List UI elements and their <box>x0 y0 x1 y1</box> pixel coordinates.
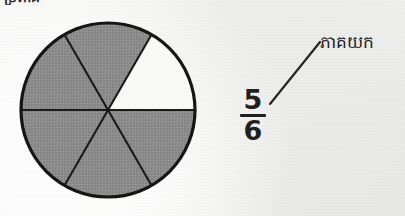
clipped-heading-text: ប្រភាគ <box>4 0 154 5</box>
pie-chart <box>19 21 197 199</box>
scanned-page: ប្រភាគ <box>0 0 405 216</box>
callout-label-numerator: ភាគយក <box>320 29 374 55</box>
pie-chart-svg <box>19 21 197 199</box>
fraction-denominator: 6 <box>232 119 274 143</box>
